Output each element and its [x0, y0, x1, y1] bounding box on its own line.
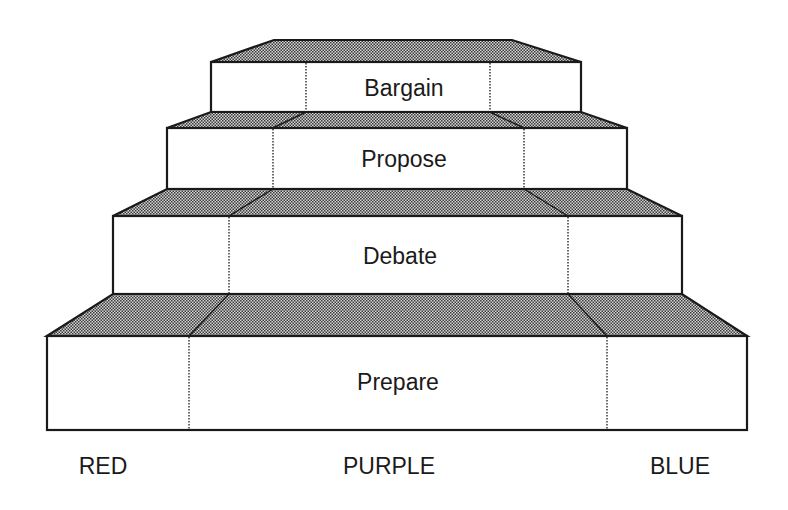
tier-roof: [47, 294, 747, 336]
tier-roof: [167, 112, 627, 128]
tier-propose: Propose: [167, 112, 627, 189]
column-labels: REDPURPLEBLUE: [79, 453, 710, 479]
pyramid-diagram: BargainProposeDebatePrepare REDPURPLEBLU…: [0, 0, 788, 510]
column-label-red: RED: [79, 453, 128, 479]
pyramid-diagram-canvas: BargainProposeDebatePrepare REDPURPLEBLU…: [0, 0, 788, 510]
tier-roof: [211, 40, 581, 62]
tier-label: Propose: [361, 146, 447, 172]
tier-label: Debate: [363, 243, 437, 269]
tier-label: Prepare: [357, 369, 439, 395]
tier-debate: Debate: [113, 189, 682, 294]
tier-label: Bargain: [364, 75, 443, 101]
tier-bargain: Bargain: [211, 40, 581, 112]
column-label-purple: PURPLE: [343, 453, 435, 479]
tier-prepare: Prepare: [47, 294, 747, 430]
tiers-layer: BargainProposeDebatePrepare: [47, 40, 747, 430]
tier-roof: [113, 189, 682, 216]
column-label-blue: BLUE: [650, 453, 710, 479]
